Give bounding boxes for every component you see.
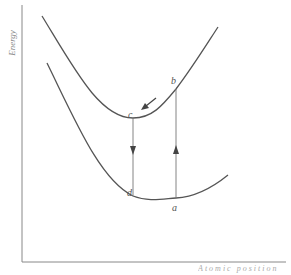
ground-state-curve <box>47 63 228 200</box>
excited-state-curve <box>42 16 218 118</box>
point-label-b: b <box>171 76 176 86</box>
point-label-a: a <box>172 203 177 213</box>
down-arrowhead-icon <box>130 146 136 155</box>
relaxation-arrow-shaft <box>146 98 156 106</box>
point-label-c: c <box>128 110 132 120</box>
point-label-d: d <box>127 188 132 198</box>
y-axis-label: Energy <box>5 23 19 63</box>
x-axis-label: Atomic position <box>198 265 288 273</box>
up-arrowhead-icon <box>173 145 179 154</box>
